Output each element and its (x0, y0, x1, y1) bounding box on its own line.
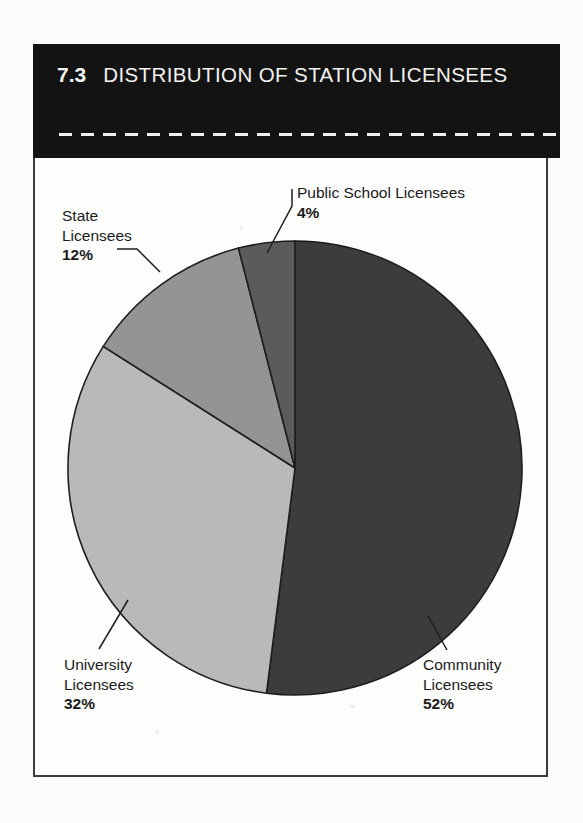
data-label-public-school: Public School Licensees 4% (297, 183, 465, 222)
figure-title: DISTRIBUTION OF STATION LICENSEES (103, 63, 507, 86)
data-label-university: University Licensees 32% (64, 655, 134, 714)
data-label-public-school-value: 4% (297, 203, 465, 223)
data-label-state-name-line1: State (62, 206, 132, 226)
data-label-university-name-line2: Licensees (64, 675, 134, 695)
figure-number: 7.3 (57, 63, 86, 86)
data-label-community: Community Licensees 52% (423, 655, 501, 714)
data-label-community-value: 52% (423, 694, 501, 714)
scan-speck (155, 730, 159, 733)
figure-heading: 7.3DISTRIBUTION OF STATION LICENSEES (57, 61, 527, 88)
data-label-state-value: 12% (62, 245, 132, 265)
scan-speck (240, 226, 243, 229)
data-label-university-value: 32% (64, 694, 134, 714)
scan-speck (350, 705, 355, 708)
figure-distribution-of-station-licensees: 7.3DISTRIBUTION OF STATION LICENSEES Pub… (0, 0, 583, 823)
data-label-public-school-name: Public School Licensees (297, 183, 465, 203)
data-label-university-name-line1: University (64, 655, 134, 675)
data-label-community-name-line1: Community (423, 655, 501, 675)
data-label-community-name-line2: Licensees (423, 675, 501, 695)
dashed-rule-icon (59, 133, 560, 136)
data-label-state-name-line2: Licensees (62, 226, 132, 246)
figure-header-band: 7.3DISTRIBUTION OF STATION LICENSEES (33, 44, 560, 158)
data-label-state: State Licensees 12% (62, 206, 132, 265)
